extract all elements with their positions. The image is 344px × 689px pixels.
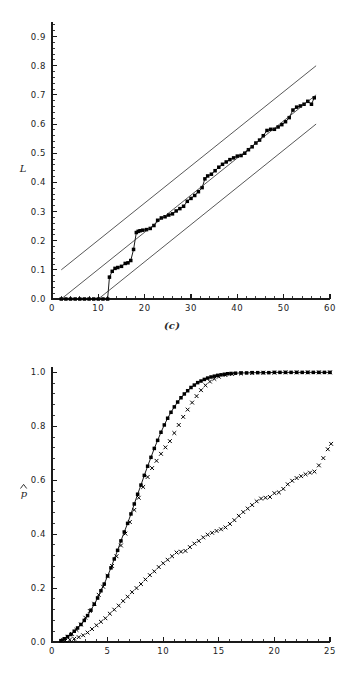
data-point-marker: [103, 616, 107, 620]
data-point-marker: [204, 383, 208, 387]
data-point-marker: [213, 169, 217, 173]
data-point-marker: [267, 371, 271, 375]
data-point-marker: [190, 401, 194, 405]
data-point-marker: [182, 205, 186, 209]
data-point-marker: [246, 507, 250, 511]
x-tick-label: 10: [92, 303, 104, 313]
series-path: [61, 95, 316, 299]
data-point-marker: [120, 265, 124, 269]
data-point-marker: [95, 623, 99, 627]
x-tick-label: 5: [105, 646, 111, 656]
data-point-marker: [166, 416, 170, 420]
data-point-marker: [295, 476, 299, 480]
data-point-marker: [192, 542, 196, 546]
data-point-marker: [208, 380, 212, 384]
y-tick-label: 0.0: [31, 637, 46, 647]
y-axis-title: L: [19, 163, 27, 174]
data-point-marker: [155, 459, 159, 463]
data-point-marker: [206, 376, 210, 380]
series-observed-x-markers-lower: [63, 442, 333, 643]
data-point-marker: [210, 531, 214, 535]
data-point-marker: [323, 371, 327, 375]
data-point-marker: [317, 464, 321, 468]
data-point-marker: [201, 535, 205, 539]
series-reference-line-lower: [98, 124, 316, 299]
data-point-marker: [112, 608, 116, 612]
series-path: [61, 66, 316, 270]
x-tick-label: 25: [324, 646, 336, 656]
chart-c-canvas: 0.00.10.20.30.40.50.60.70.80.90102030405…: [0, 0, 344, 345]
y-axis-ticks: 0.00.10.20.30.40.50.60.70.80.9: [31, 25, 57, 304]
data-point-marker: [186, 389, 190, 393]
data-point-marker: [141, 228, 145, 232]
x-tick-label: 15: [213, 646, 225, 656]
x-axis-ticks: 0510152025: [49, 637, 336, 656]
data-point-marker: [176, 400, 180, 404]
data-point-marker: [161, 561, 165, 565]
chart-panel-d: 0.00.20.40.60.81.00510152025p (d): [0, 345, 344, 689]
data-point-marker: [224, 526, 228, 530]
data-point-marker: [250, 503, 254, 507]
data-point-marker: [199, 379, 203, 383]
data-point-marker: [199, 388, 203, 392]
data-group: [60, 66, 317, 301]
data-point-marker: [179, 550, 183, 554]
data-point-marker: [132, 508, 136, 512]
data-point-marker: [215, 529, 219, 533]
data-point-marker: [174, 209, 178, 213]
data-point-marker: [168, 439, 172, 443]
data-point-marker: [186, 200, 190, 204]
x-tick-label: 50: [278, 303, 290, 313]
data-point-marker: [166, 558, 170, 562]
data-point-marker: [73, 297, 77, 301]
data-point-marker: [329, 442, 333, 446]
data-point-marker: [308, 471, 312, 475]
data-point-marker: [64, 297, 68, 301]
y-tick-label: 0.7: [31, 90, 46, 100]
data-point-marker: [179, 396, 183, 400]
data-point-marker: [139, 582, 143, 586]
data-point-marker: [177, 423, 181, 427]
data-point-marker: [281, 487, 285, 491]
data-point-marker: [68, 638, 72, 642]
chart-d-canvas: 0.00.20.40.60.81.00510152025p: [0, 345, 344, 689]
data-point-marker: [116, 549, 120, 553]
y-tick-label: 0.0: [31, 294, 46, 304]
data-point-marker: [156, 439, 160, 443]
data-point-marker: [108, 612, 112, 616]
x-tick-label: 60: [324, 303, 336, 313]
data-point-marker: [186, 408, 190, 412]
axis-lines: [52, 367, 330, 642]
y-tick-label: 0.2: [31, 236, 46, 246]
data-group: [59, 370, 333, 642]
data-point-marker: [148, 573, 152, 577]
x-tick-label: 20: [139, 303, 151, 313]
data-point-marker: [170, 554, 174, 558]
data-point-marker: [286, 482, 290, 486]
data-point-marker: [289, 371, 293, 375]
data-point-marker: [217, 165, 221, 169]
data-point-marker: [183, 392, 187, 396]
chart-panel-c: 0.00.10.20.30.40.50.60.70.80.90102030405…: [0, 0, 344, 345]
data-point-marker: [228, 522, 232, 526]
data-point-marker: [146, 475, 150, 479]
data-point-marker: [83, 297, 87, 301]
y-tick-label: 0.8: [31, 421, 46, 431]
data-point-marker: [137, 496, 141, 500]
figure-page: 0.00.10.20.30.40.50.60.70.80.90102030405…: [0, 0, 344, 689]
data-point-marker: [313, 470, 317, 474]
data-point-marker: [241, 510, 245, 514]
data-point-marker: [159, 431, 163, 435]
data-point-marker: [77, 635, 81, 639]
data-point-marker: [234, 371, 238, 375]
data-point-marker: [101, 297, 105, 301]
y-tick-label: 0.2: [31, 583, 46, 593]
data-point-marker: [108, 275, 112, 279]
data-point-marker: [193, 194, 197, 198]
data-point-marker: [99, 620, 103, 624]
data-point-marker: [295, 105, 299, 109]
data-point-marker: [277, 490, 281, 494]
data-point-marker: [181, 415, 185, 419]
axes-group: 0.00.10.20.30.40.50.60.70.80.90102030405…: [19, 22, 336, 313]
data-point-marker: [255, 499, 259, 503]
